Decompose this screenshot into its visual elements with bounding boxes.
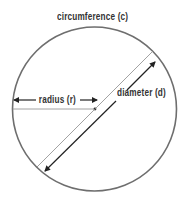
diameter-arrow-up (127, 62, 155, 90)
diameter-label: diameter (d) (117, 88, 166, 98)
circumference-label: circumference (c) (57, 12, 128, 22)
diameter-arrow-down (45, 101, 116, 171)
circle-diagram (0, 0, 188, 201)
radius-label: radius (r) (38, 95, 77, 105)
